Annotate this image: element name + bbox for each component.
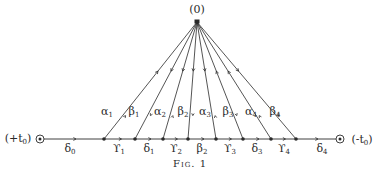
- right-end-close: ): [368, 133, 372, 146]
- segment-label-symbol: δ: [316, 142, 323, 155]
- segment-label-subscript: 3: [232, 148, 236, 156]
- node-point: [214, 137, 218, 141]
- apex-label: (0): [189, 4, 205, 15]
- segment-label-symbol: ϒ: [224, 142, 232, 155]
- segment-label: ϒ4: [278, 143, 290, 158]
- figure-caption: Fig. 1: [173, 158, 207, 169]
- apex-point: [195, 20, 200, 24]
- segment-label-symbol: δ: [143, 142, 150, 155]
- arrow-icon: [171, 116, 173, 118]
- ray-label: β3: [223, 106, 234, 121]
- segment-label: ϒ2: [170, 143, 182, 158]
- left-end-label: (+t0): [5, 133, 32, 148]
- arrow-icon: [192, 113, 194, 115]
- segment-label: δ3: [251, 143, 262, 158]
- ray-label-subscript: 3: [229, 111, 233, 119]
- ray-line: [135, 22, 197, 139]
- segment-label-subscript: 2: [203, 148, 207, 156]
- ray-line: [197, 22, 216, 139]
- ray-label-subscript: 1: [135, 111, 139, 119]
- node-point: [186, 137, 190, 141]
- arrow-icon: [235, 113, 237, 115]
- ray-line: [197, 22, 271, 139]
- right-end-dot: [339, 138, 342, 141]
- right-end-label: (-t0): [351, 134, 372, 149]
- ray-label: α2: [154, 106, 166, 121]
- segment-label-symbol: ϒ: [278, 142, 286, 155]
- segment-label-subscript: 4: [286, 148, 290, 156]
- left-end-dot: [39, 138, 42, 141]
- segment-label-subscript: 4: [323, 148, 327, 156]
- node-point: [161, 137, 165, 141]
- ray-label: β1: [129, 106, 140, 121]
- node-point: [133, 137, 137, 141]
- segment-label-symbol: ϒ: [170, 142, 178, 155]
- segment-label: ϒ3: [224, 143, 236, 158]
- ray-label: β2: [178, 106, 189, 121]
- ray-label-subscript: 2: [161, 111, 165, 119]
- arrow-icon: [259, 116, 261, 118]
- rays: [104, 22, 296, 139]
- left-end-text: (+t: [5, 132, 23, 145]
- node-point: [294, 137, 298, 141]
- ray-label-subscript: 2: [184, 111, 188, 119]
- arrow-icon: [123, 116, 125, 118]
- ray-line: [163, 22, 197, 139]
- arrow-icon: [150, 113, 152, 115]
- segment-label: ϒ1: [113, 143, 125, 158]
- ray-label: α4: [245, 106, 257, 121]
- segment-label-symbol: δ: [64, 142, 71, 155]
- right-end-text: (-t: [351, 133, 363, 146]
- segment-label-subscript: 1: [150, 148, 154, 156]
- ray-line: [197, 22, 296, 139]
- ray-label: α3: [199, 106, 211, 121]
- left-end-close: ): [27, 132, 31, 145]
- ray-label-subscript: 4: [252, 111, 256, 119]
- segment-label-subscript: 0: [71, 148, 75, 156]
- segment-label-symbol: δ: [251, 142, 258, 155]
- segment-label-subscript: 2: [178, 148, 182, 156]
- direction-arrows: [73, 68, 318, 140]
- ray-line: [104, 22, 197, 139]
- segment-label: δ4: [316, 143, 327, 158]
- ray-label-subscript: 1: [108, 111, 112, 119]
- ray-line: [188, 22, 197, 139]
- ray-line: [197, 22, 243, 139]
- ray-label-subscript: 4: [276, 111, 280, 119]
- segment-label: δ1: [143, 143, 154, 158]
- ray-label: β4: [270, 106, 281, 121]
- node-point: [102, 137, 106, 141]
- arrow-icon: [214, 116, 216, 118]
- node-point: [269, 137, 273, 141]
- ray-label: α1: [101, 106, 113, 121]
- segment-label-subscript: 1: [121, 148, 125, 156]
- node-point: [241, 137, 245, 141]
- segment-label: δ0: [64, 143, 75, 158]
- ray-label-subscript: 3: [206, 111, 210, 119]
- segment-label-subscript: 3: [258, 148, 262, 156]
- segment-label-symbol: ϒ: [113, 142, 121, 155]
- segment-label: β2: [197, 143, 208, 158]
